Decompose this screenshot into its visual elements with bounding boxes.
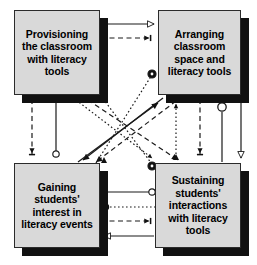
edge-marker-circle-dot-upper-hole [151, 73, 154, 76]
influence-diagram: Provisioning the classroom with literacy… [0, 0, 257, 265]
edge-gaining-arranging-solid [78, 103, 158, 162]
node-sustaining[interactable]: Sustaining students' interactions with l… [155, 163, 241, 248]
edge-marker-circle-dot-lower-hole [151, 165, 154, 168]
edge-sustaining-provisioning-dotted [104, 100, 152, 164]
node-label-arranging: Arranging classroom space and literacy t… [159, 28, 240, 78]
node-label-provisioning: Provisioning the classroom with literacy… [15, 28, 99, 78]
edge-arranging-gaining-dashed [96, 101, 176, 162]
node-label-gaining: Gaining students' interest in literacy e… [15, 181, 99, 231]
node-arranging[interactable]: Arranging classroom space and literacy t… [158, 10, 241, 95]
node-gaining[interactable]: Gaining students' interest in literacy e… [14, 163, 100, 248]
edge-marker-circle-arranging [218, 103, 226, 111]
edge-marker-triangle-gaining [101, 157, 107, 163]
node-provisioning[interactable]: Provisioning the classroom with literacy… [14, 10, 100, 95]
edge-provisioning-sustaining-dotted [76, 100, 152, 158]
node-label-sustaining: Sustaining students' interactions with l… [156, 174, 240, 236]
edge-provisioning-sustaining-dashed [88, 100, 178, 160]
